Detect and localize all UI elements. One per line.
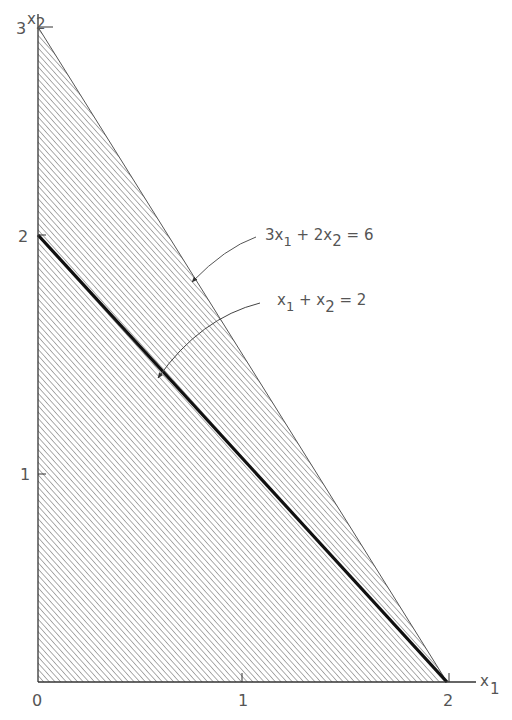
y-tick-label-2: 2 xyxy=(18,227,28,246)
constraint-label-2: x1 + x2 = 2 xyxy=(277,291,366,316)
y-tick-label-3: 3 xyxy=(16,19,26,38)
constraint-label-1: 3x1 + 2x2 = 6 xyxy=(265,226,373,250)
x1-axis-label: x1 xyxy=(480,672,499,698)
x2-axis-label: x2 xyxy=(27,10,45,33)
lp-feasible-region-figure: x2 x1 0 1 2 1 2 3 3x1 + 2x2 = 6 x1 + x2 … xyxy=(0,0,512,720)
y-tick-label-1: 1 xyxy=(20,465,30,484)
x-tick-label-2: 2 xyxy=(443,691,453,710)
x-tick-label-1: 1 xyxy=(238,691,248,710)
origin-label: 0 xyxy=(32,691,42,710)
leader-arrow-constraint-1 xyxy=(192,237,256,282)
